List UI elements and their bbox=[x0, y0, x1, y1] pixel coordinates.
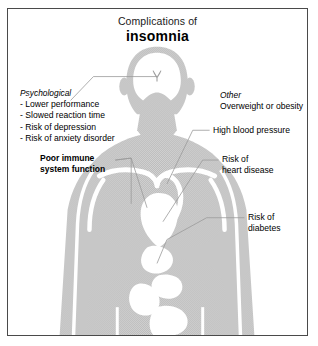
title-primary-line: Complications of bbox=[8, 15, 307, 28]
diagram-frame: Complications of insomnia Psychological … bbox=[7, 8, 308, 336]
annotation-other-item: Overweight or obesity bbox=[220, 101, 303, 112]
annotation-heart-disease-line-2: heart disease bbox=[222, 165, 274, 176]
annotation-immune-line-2: system function bbox=[40, 164, 105, 175]
annotation-other-heading: Other bbox=[220, 90, 303, 101]
annotation-heart-disease-line-1: Risk of bbox=[222, 154, 274, 165]
annotation-psychological-item-0: - Lower performance bbox=[20, 99, 115, 110]
annotation-immune-line-1: Poor immune bbox=[40, 153, 105, 164]
ear-right-shape bbox=[185, 78, 195, 96]
annotation-diabetes: Risk of diabetes bbox=[248, 212, 281, 235]
annotation-psychological: Psychological - Lower performance - Slow… bbox=[20, 88, 115, 144]
annotation-diabetes-line-1: Risk of bbox=[248, 212, 281, 223]
ear-left-shape bbox=[119, 78, 129, 96]
annotation-diabetes-line-2: diabetes bbox=[248, 223, 281, 234]
annotation-psychological-item-2: - Risk of depression bbox=[20, 122, 115, 133]
annotation-immune: Poor immune system function bbox=[40, 153, 105, 175]
annotation-other: Other Overweight or obesity bbox=[220, 90, 303, 112]
title-subject: insomnia bbox=[8, 28, 307, 45]
annotation-blood-pressure: High blood pressure bbox=[213, 125, 290, 136]
annotation-heart-disease: Risk of heart disease bbox=[222, 154, 274, 177]
figure-title: Complications of insomnia bbox=[8, 15, 307, 45]
annotation-psychological-heading: Psychological bbox=[20, 88, 115, 99]
annotation-psychological-item-1: - Slowed reaction time bbox=[20, 110, 115, 121]
annotation-psychological-item-3: - Risk of anxiety disorder bbox=[20, 133, 115, 144]
head-group bbox=[119, 47, 194, 115]
annotation-blood-pressure-line-1: High blood pressure bbox=[213, 125, 290, 136]
